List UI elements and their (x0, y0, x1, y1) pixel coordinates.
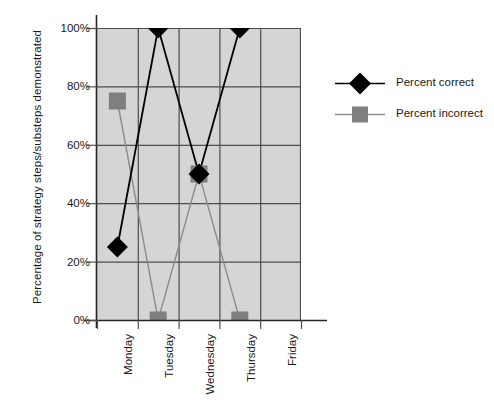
legend-item-percent-correct[interactable]: Percent correct (333, 68, 493, 99)
legend-item-percent-incorrect[interactable]: Percent incorrect (333, 99, 493, 130)
x-tick-label: Friday (286, 334, 298, 366)
line-chart: Percentage of strategy steps/substeps de… (0, 0, 494, 409)
x-axis-tick-labels: MondayTuesdayWednesdayThursdayFriday (97, 322, 301, 407)
diamond-marker-icon (333, 68, 387, 99)
legend-label: Percent incorrect (396, 107, 483, 119)
square-marker-icon (333, 99, 387, 130)
x-tick-label: Tuesday (163, 334, 175, 378)
x-tick-label: Thursday (245, 334, 257, 382)
chart-legend: Percent correct Percent incorrect (333, 68, 493, 130)
x-tick-label: Wednesday (204, 334, 216, 395)
legend-label: Percent correct (396, 76, 474, 88)
x-tick-label: Monday (122, 334, 134, 375)
